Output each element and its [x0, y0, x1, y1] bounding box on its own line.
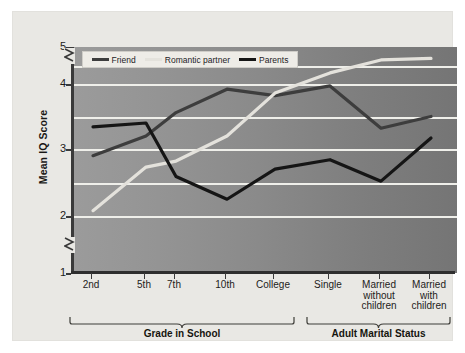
legend-swatch-icon — [92, 58, 109, 61]
group-bracket — [306, 314, 451, 325]
chart-card: 12345 Mean IQ Score 2nd5th7th10thCollege… — [12, 11, 453, 341]
series-line — [93, 123, 431, 199]
series-line — [93, 58, 431, 210]
axis-break-icon — [64, 48, 75, 64]
data-lines — [74, 47, 457, 273]
legend-item: Parents — [239, 55, 288, 65]
x-tick-label: 5th — [137, 280, 151, 291]
x-tick-label: 10th — [215, 280, 234, 291]
y-axis-title: Mean IQ Score — [37, 92, 49, 202]
legend-swatch-icon — [145, 58, 162, 61]
series-line — [93, 86, 431, 156]
legend-item: Romantic partner — [145, 55, 230, 65]
y-tick-label: 3 — [50, 143, 66, 154]
y-tick-label: 2 — [50, 210, 66, 221]
x-tick-label: Married without children — [361, 280, 396, 312]
legend-item: Friend — [92, 55, 136, 65]
x-tick-label: 7th — [167, 280, 181, 291]
legend-item-label: Parents — [259, 55, 288, 65]
x-tick-label: Single — [314, 280, 342, 291]
x-tick-label: College — [256, 280, 290, 291]
y-tick-label: 1 — [50, 267, 66, 278]
y-tick-mark — [66, 216, 71, 218]
legend-item-label: Romantic partner — [165, 55, 230, 65]
figure-root: 12345 Mean IQ Score 2nd5th7th10thCollege… — [0, 0, 465, 353]
y-tick-label: 4 — [50, 78, 66, 89]
y-tick-mark — [66, 84, 71, 86]
chart-legend: FriendRomantic partnerParents — [82, 51, 298, 68]
group-bracket — [69, 314, 295, 325]
legend-swatch-icon — [239, 58, 256, 61]
legend-item-label: Friend — [112, 55, 136, 65]
x-axis-line — [71, 271, 455, 274]
x-tick-label: 2nd — [83, 280, 100, 291]
group-label: Adult Marital Status — [332, 328, 426, 339]
x-tick-label: Married with children — [411, 280, 446, 312]
plot-area — [72, 47, 457, 273]
axis-break-icon — [64, 237, 75, 253]
y-tick-mark — [66, 149, 71, 151]
group-label: Grade in School — [144, 328, 221, 339]
